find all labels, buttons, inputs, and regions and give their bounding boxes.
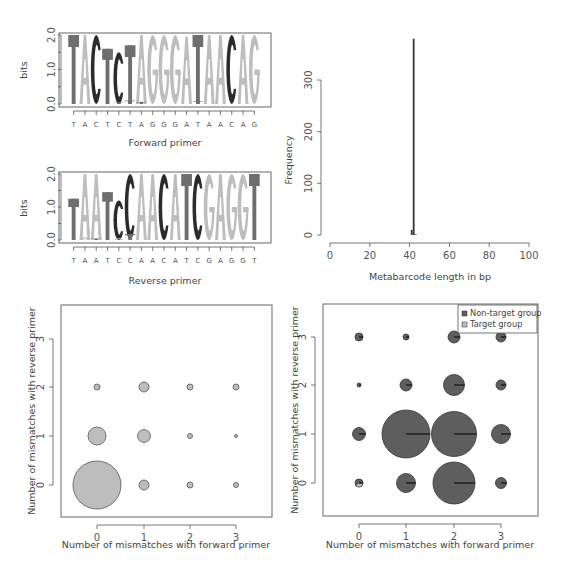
logo-letter-T: [193, 35, 204, 104]
axes: 0204060801000100200300: [303, 70, 539, 261]
x-tick-label: 40: [403, 250, 416, 261]
pie-bubble: [492, 425, 511, 444]
forward-primer-logo: 0.01.02.0 TACTCTAGGGATAACAG Forward prim…: [18, 27, 271, 148]
y-tick-label: 0: [303, 232, 314, 238]
pie-bubble: [403, 334, 409, 340]
sequence-tick-label: A: [150, 257, 155, 265]
bubble: [235, 435, 238, 438]
logo-letter-T: [181, 174, 192, 240]
pie-bubble: [444, 375, 465, 396]
sequence-tick-label: G: [173, 121, 178, 129]
logo-letter-T: [125, 101, 135, 104]
x-axis-label: Number of mismatches with forward primer: [62, 539, 270, 550]
logo-letter-A: [136, 35, 147, 104]
logo-letter-A: [147, 174, 158, 240]
sequence-tick-label: G: [252, 121, 257, 129]
sequence-tick-label: A: [218, 121, 223, 129]
reverse-primer-logo: 0.01.02.0 TAATCCAACATCGAGGT Reverse prim…: [18, 166, 271, 286]
logo-letters: [68, 35, 260, 104]
sequence-tick-label: G: [161, 121, 166, 129]
y-tick-label: 0.0: [46, 96, 57, 112]
logo-letter-T: [68, 199, 79, 240]
pie-bubble: [353, 428, 366, 441]
sequence-tick-label: G: [229, 257, 234, 265]
y-tick-label: 2.0: [46, 27, 57, 43]
logo-letter-A: [170, 174, 181, 240]
sequence-tick-label: G: [206, 257, 211, 265]
bubble: [187, 384, 193, 390]
x-axis: TAATCCAACATCGAGGT: [71, 247, 258, 265]
pie-bubble: [400, 379, 412, 391]
pie-bubble: [433, 462, 475, 504]
y-tick-label: 200: [303, 122, 314, 141]
logo-letter-A: [215, 35, 226, 104]
histogram-bars: [411, 39, 417, 235]
logo-letter-G: [249, 35, 260, 104]
pie-bubble: [397, 474, 416, 493]
x-tick-label: 0: [327, 250, 333, 261]
logo-letter-A: [238, 35, 249, 104]
logo-letter-G: [147, 35, 158, 104]
logo-letter-G: [238, 174, 249, 240]
logo-letters: [68, 174, 259, 240]
target-mismatch-bubble-plot: 01230123 Number of mismatches with forwa…: [26, 305, 272, 550]
logo-letter-A: [204, 35, 215, 104]
y-tick-label: 300: [303, 70, 314, 89]
y-tick-label: 0.0: [46, 232, 57, 248]
logo-letter-T: [249, 174, 260, 240]
y-tick-label: 1.0: [46, 62, 57, 78]
sequence-tick-label: T: [104, 121, 110, 129]
sequence-tick-label: T: [195, 121, 201, 129]
pie-bubbles: [353, 331, 511, 504]
x-tick-label: 20: [363, 250, 376, 261]
legend-label-nontarget: Non-target group: [470, 308, 542, 318]
logo-letter-C: [125, 174, 136, 240]
sequence-tick-label: C: [195, 257, 200, 265]
logo-letter-A: [91, 174, 102, 240]
x-axis-label: Metabarcode length in bp: [369, 271, 491, 282]
sequence-tick-label: C: [116, 121, 121, 129]
sequence-tick-label: A: [83, 121, 88, 129]
bubble: [139, 382, 149, 392]
y-axis-label: Number of mismatches with reverse primer: [289, 306, 300, 514]
logo-letter-T: [114, 102, 124, 104]
bubble: [234, 483, 239, 488]
sequence-tick-label: A: [83, 257, 88, 265]
logo-letter-G: [204, 174, 215, 240]
logo-letter-T: [125, 234, 135, 240]
logo-letter-G: [226, 174, 237, 240]
logo-letter-C: [113, 52, 124, 104]
logo-letter-A: [80, 35, 91, 104]
y-axis-label: bits: [18, 61, 29, 78]
sequence-tick-label: T: [71, 257, 77, 265]
bubbles: [73, 382, 239, 509]
bubble: [188, 434, 193, 439]
x-axis-label: Forward primer: [129, 137, 202, 148]
x-axis-label: Number of mismatches with forward primer: [326, 539, 534, 550]
logo-letter-T: [102, 49, 113, 104]
logo-letter-T: [193, 101, 203, 104]
pie-bubble: [357, 383, 361, 387]
y-axis-label: Frequency: [283, 135, 294, 184]
bubble: [73, 461, 121, 509]
pie-bubble: [382, 410, 430, 458]
histogram-bar: [411, 230, 413, 235]
legend: Non-target group Target group: [458, 305, 542, 333]
sequence-tick-label: T: [251, 257, 257, 265]
bubble: [138, 430, 151, 443]
legend-swatch-nontarget: [462, 311, 467, 316]
logo-letter-T: [68, 35, 79, 104]
logo-letter-C: [91, 35, 102, 104]
sequence-tick-label: C: [128, 257, 133, 265]
x-tick-label: 60: [443, 250, 456, 261]
logo-letter-T: [125, 45, 136, 104]
sequence-tick-label: T: [104, 257, 110, 265]
sequence-tick-label: A: [218, 257, 223, 265]
pie-bubble: [496, 332, 506, 342]
pie-bubble: [432, 412, 477, 457]
logo-letter-C: [159, 174, 170, 240]
sequence-tick-label: C: [229, 121, 234, 129]
sequence-tick-label: T: [127, 121, 133, 129]
sequence-tick-label: T: [183, 257, 189, 265]
logo-letter-C: [113, 200, 124, 240]
